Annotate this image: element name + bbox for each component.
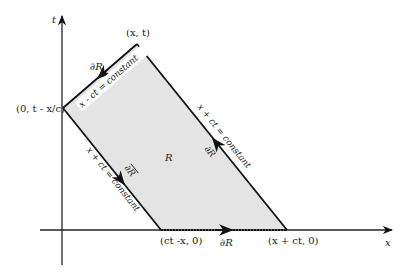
vertex-left-label: (0, t - x/c) — [16, 103, 65, 114]
t-axis-label: t — [52, 14, 57, 25]
characteristic-diagram: t x (x, t) (0, t - x/c) (ct -x, 0) (x + … — [0, 0, 408, 275]
upper-left-boundary-label: ∂R — [90, 61, 103, 72]
region-label: R — [164, 152, 173, 163]
vertex-bottom-right-label: (x + ct, 0) — [268, 235, 319, 246]
vertex-apex-label: (x, t) — [126, 27, 150, 38]
vertex-bottom-left-label: (ct -x, 0) — [160, 235, 202, 246]
bottom-boundary-label: ∂R — [220, 237, 233, 248]
x-axis-label: x — [385, 237, 391, 248]
